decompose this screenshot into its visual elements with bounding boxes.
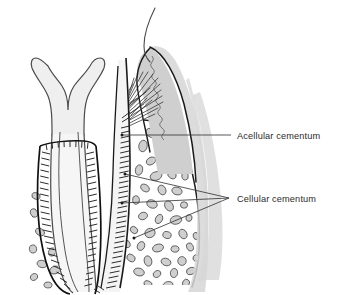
label-acellular-cementum: Acellular cementum — [237, 131, 321, 141]
cementum-diagram-figure: Acellular cementum Cellular cementum — [0, 0, 340, 295]
leader-dot-cellular-2 — [121, 202, 124, 205]
leader-dot-cellular-1 — [124, 173, 127, 176]
label-cellular-cementum: Cellular cementum — [237, 194, 316, 204]
diagram-canvas: Acellular cementum Cellular cementum — [0, 0, 340, 295]
leader-dot-acellular — [121, 134, 124, 137]
leader-dot-cellular-3 — [133, 237, 136, 240]
